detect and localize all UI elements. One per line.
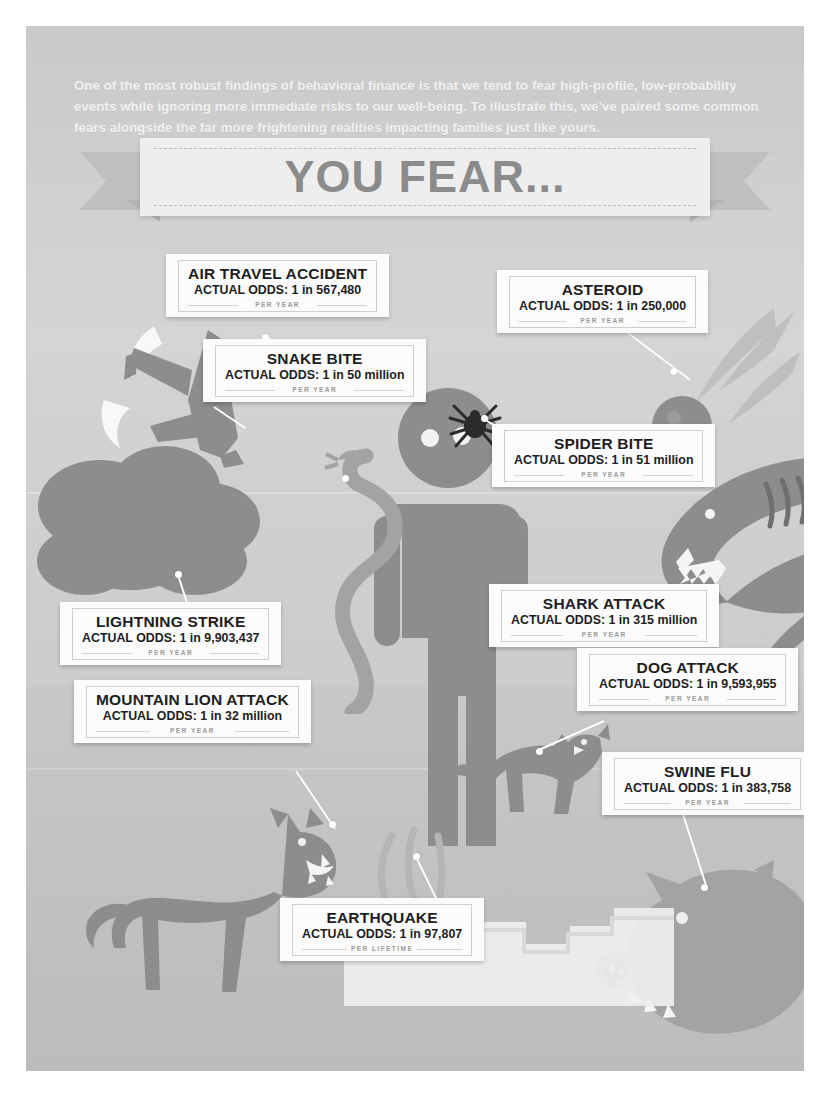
callout-dog-attack[interactable]: DOG ATTACK ACTUAL ODDS: 1 in 9,593,955 P…	[577, 648, 798, 711]
callout-inner: AIR TRAVEL ACCIDENT ACTUAL ODDS: 1 in 56…	[178, 260, 377, 312]
leader-dot-dog	[536, 748, 543, 755]
callout-odds: ACTUAL ODDS: 1 in 383,758	[624, 781, 791, 796]
leader-dot-spider	[481, 415, 488, 422]
leader-dot-asteroid	[670, 368, 677, 375]
callout-odds: ACTUAL ODDS: 1 in 97,807	[302, 927, 462, 942]
callout-title: AIR TRAVEL ACCIDENT	[188, 265, 367, 282]
callout-swine-flu[interactable]: SWINE FLU ACTUAL ODDS: 1 in 383,758 PER …	[602, 752, 804, 815]
callout-inner: SWINE FLU ACTUAL ODDS: 1 in 383,758 PER …	[614, 758, 801, 810]
callout-odds: ACTUAL ODDS: 1 in 9,593,955	[599, 677, 776, 692]
callout-period: PER YEAR	[96, 727, 289, 734]
callout-period: PER YEAR	[599, 695, 776, 702]
callout-shark-attack[interactable]: SHARK ATTACK ACTUAL ODDS: 1 in 315 milli…	[489, 584, 719, 647]
callout-inner: MOUNTAIN LION ATTACK ACTUAL ODDS: 1 in 3…	[86, 686, 299, 738]
callout-title: SPIDER BITE	[514, 435, 693, 452]
callout-title: DOG ATTACK	[599, 659, 776, 676]
callout-inner: DOG ATTACK ACTUAL ODDS: 1 in 9,593,955 P…	[589, 654, 786, 706]
callout-odds: ACTUAL ODDS: 1 in 51 million	[514, 453, 693, 468]
callout-spider-bite[interactable]: SPIDER BITE ACTUAL ODDS: 1 in 51 million…	[492, 424, 715, 487]
callout-odds: ACTUAL ODDS: 1 in 9,903,437	[82, 631, 259, 646]
intro-paragraph: One of the most robust findings of behav…	[74, 75, 764, 138]
callout-title: ASTEROID	[519, 281, 686, 298]
callout-title: SNAKE BITE	[225, 350, 404, 367]
callout-title: LIGHTNING STRIKE	[82, 613, 259, 630]
callout-earthquake[interactable]: EARTHQUAKE ACTUAL ODDS: 1 in 97,807 PER …	[280, 898, 484, 961]
leader-dot-swine-flu	[701, 884, 708, 891]
callout-period: PER YEAR	[82, 649, 259, 656]
leader-dot-lightning	[175, 571, 182, 578]
callout-air-travel-accident[interactable]: AIR TRAVEL ACCIDENT ACTUAL ODDS: 1 in 56…	[166, 254, 389, 317]
callout-title: EARTHQUAKE	[302, 909, 462, 926]
page-title: YOU FEAR...	[140, 138, 710, 216]
callout-asteroid[interactable]: ASTEROID ACTUAL ODDS: 1 in 250,000 PER Y…	[497, 270, 708, 333]
callout-odds: ACTUAL ODDS: 1 in 32 million	[96, 709, 289, 724]
callout-inner: LIGHTNING STRIKE ACTUAL ODDS: 1 in 9,903…	[72, 608, 269, 660]
callout-inner: EARTHQUAKE ACTUAL ODDS: 1 in 97,807 PER …	[292, 904, 472, 956]
callout-inner: ASTEROID ACTUAL ODDS: 1 in 250,000 PER Y…	[509, 276, 696, 328]
callout-title: MOUNTAIN LION ATTACK	[96, 691, 289, 708]
callout-inner: SHARK ATTACK ACTUAL ODDS: 1 in 315 milli…	[501, 590, 707, 642]
callout-inner: SNAKE BITE ACTUAL ODDS: 1 in 50 million …	[215, 345, 414, 397]
callout-odds: ACTUAL ODDS: 1 in 567,480	[188, 283, 367, 298]
callout-mountain-lion-attack[interactable]: MOUNTAIN LION ATTACK ACTUAL ODDS: 1 in 3…	[74, 680, 311, 743]
callout-period: PER LIFETIME	[302, 945, 462, 952]
callout-snake-bite[interactable]: SNAKE BITE ACTUAL ODDS: 1 in 50 million …	[203, 339, 426, 402]
callout-period: PER YEAR	[188, 301, 367, 308]
callout-period: PER YEAR	[225, 386, 404, 393]
callout-title: SWINE FLU	[624, 763, 791, 780]
attacking-dog-icon	[450, 716, 610, 836]
callout-odds: ACTUAL ODDS: 1 in 315 million	[511, 613, 697, 628]
banner-plate: YOU FEAR...	[140, 138, 710, 216]
leader-dot-earthquake	[413, 853, 420, 860]
callout-period: PER YEAR	[514, 471, 693, 478]
callout-period: PER YEAR	[519, 317, 686, 324]
leader-dot-snake	[342, 475, 349, 482]
snake-icon	[322, 444, 442, 714]
callout-inner: SPIDER BITE ACTUAL ODDS: 1 in 51 million…	[504, 430, 703, 482]
banner: YOU FEAR...	[80, 138, 770, 224]
callout-period: PER YEAR	[511, 631, 697, 638]
callout-title: SHARK ATTACK	[511, 595, 697, 612]
callout-odds: ACTUAL ODDS: 1 in 250,000	[519, 299, 686, 314]
callout-lightning-strike[interactable]: LIGHTNING STRIKE ACTUAL ODDS: 1 in 9,903…	[60, 602, 281, 665]
infographic-poster: One of the most robust findings of behav…	[26, 26, 804, 1071]
callout-odds: ACTUAL ODDS: 1 in 50 million	[225, 368, 404, 383]
leader-dot-mountain-lion	[329, 821, 336, 828]
callout-period: PER YEAR	[624, 799, 791, 806]
